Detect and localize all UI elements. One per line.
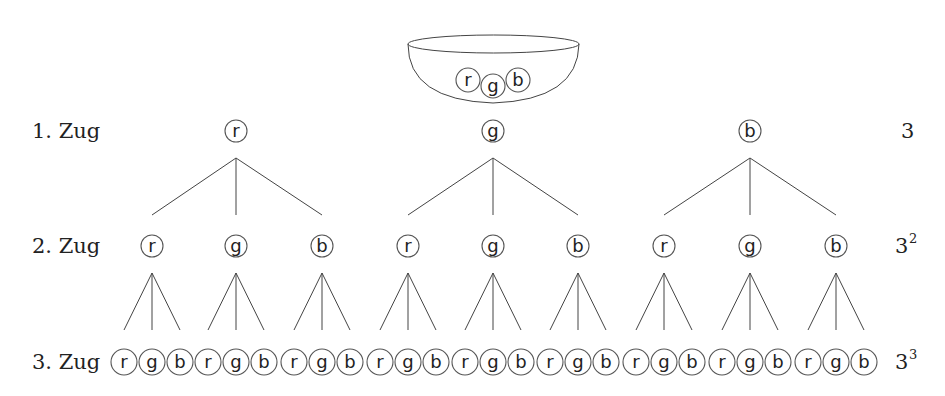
ball-letter: g — [230, 351, 241, 372]
bowl-ball-b: b — [506, 68, 530, 92]
level-2-node-r: r — [653, 235, 675, 258]
ball-letter: b — [744, 120, 755, 141]
ball-letter: b — [600, 351, 611, 372]
level-2-label: 2. Zug — [32, 234, 100, 258]
level-3-node-b: b — [167, 349, 193, 375]
ball-letter: g — [487, 75, 498, 96]
level-3-node-g: g — [480, 349, 506, 375]
ball-letter: b — [316, 235, 327, 256]
level-3-node-r: r — [367, 349, 393, 375]
level-2-node-g: g — [739, 235, 761, 258]
level-2-node-r: r — [397, 235, 419, 258]
level-1-label: 1. Zug — [32, 119, 100, 143]
ball-letter: r — [804, 351, 812, 372]
tree-edge — [493, 158, 578, 215]
ball-letter: r — [660, 235, 668, 256]
tree-edge — [152, 273, 180, 330]
level-3-node-r: r — [623, 349, 649, 375]
bowl: rgb — [408, 35, 579, 103]
ball-letter: r — [632, 351, 640, 372]
tree-edge — [550, 273, 578, 330]
ball-letter: r — [464, 69, 472, 90]
ball-letter: g — [744, 351, 755, 372]
level-3-node-r: r — [795, 349, 821, 375]
level-3-node-g: g — [565, 349, 591, 375]
tree-edge — [408, 273, 436, 330]
ball-letter: b — [258, 351, 269, 372]
level-3-node-r: r — [281, 349, 307, 375]
level-3-count: 3 — [895, 350, 908, 374]
tree-edge — [808, 273, 836, 330]
ball-letter: r — [290, 351, 298, 372]
ball-letter: b — [830, 235, 841, 256]
bowl-ball-g: g — [481, 74, 505, 98]
tree-nodes: rgbrgbrgbrgbrgbrgbrgbrgbrgbrgbrgbrgbrgb — [111, 120, 877, 376]
ball-letter: g — [830, 351, 841, 372]
level-3-node-g: g — [651, 349, 677, 375]
ball-letter: b — [512, 69, 523, 90]
bowl-balls: rgb — [456, 68, 530, 98]
level-3-node-g: g — [737, 349, 763, 375]
level-3-node-b: b — [593, 349, 619, 375]
level-3-node-b: b — [423, 349, 449, 375]
level-2-node-g: g — [482, 235, 504, 258]
ball-letter: g — [316, 351, 327, 372]
level-3-node-b: b — [337, 349, 363, 375]
tree-edge — [664, 158, 750, 215]
level-2-node-g: g — [225, 235, 247, 258]
ball-letter: g — [487, 120, 498, 141]
ball-letter: r — [148, 235, 156, 256]
ball-letter: g — [744, 235, 755, 256]
ball-letter: r — [404, 235, 412, 256]
level-1-node-r: r — [225, 120, 247, 143]
level-2-node-b: b — [311, 235, 333, 258]
tree-edge — [465, 273, 493, 330]
tree-diagram: rgb 1. Zug 2. Zug 3. Zug 3 3 2 3 3 rgbrg… — [0, 0, 945, 396]
tree-edge — [578, 273, 606, 330]
level-2-node-b: b — [825, 235, 847, 258]
tree-edge — [836, 273, 864, 330]
level-1-count: 3 — [901, 119, 914, 143]
level-3-node-b: b — [765, 349, 791, 375]
level-3-node-r: r — [709, 349, 735, 375]
tree-edge — [236, 158, 322, 215]
ball-letter: b — [572, 235, 583, 256]
tree-edge — [236, 273, 264, 330]
tree-edge — [408, 158, 493, 215]
bowl-rim — [408, 35, 579, 53]
level-3-node-g: g — [139, 349, 165, 375]
tree-edge — [722, 273, 750, 330]
ball-letter: r — [461, 351, 469, 372]
ball-letter: b — [686, 351, 697, 372]
level-3-node-g: g — [823, 349, 849, 375]
level-3-node-b: b — [679, 349, 705, 375]
tree-edge — [750, 158, 836, 215]
ball-letter: g — [402, 351, 413, 372]
ball-letter: b — [515, 351, 526, 372]
level-2-node-b: b — [567, 235, 589, 258]
level-3-label: 3. Zug — [32, 350, 100, 374]
level-3-node-b: b — [851, 349, 877, 375]
tree-edge — [208, 273, 236, 330]
level-2-count: 3 — [895, 234, 908, 258]
ball-letter: r — [718, 351, 726, 372]
ball-letter: g — [487, 235, 498, 256]
ball-letter: b — [430, 351, 441, 372]
ball-letter: g — [572, 351, 583, 372]
ball-letter: b — [344, 351, 355, 372]
level-3-node-b: b — [251, 349, 277, 375]
tree-edge — [636, 273, 664, 330]
ball-letter: r — [376, 351, 384, 372]
level-1-node-b: b — [739, 120, 761, 143]
ball-letter: g — [487, 351, 498, 372]
level-3-node-g: g — [395, 349, 421, 375]
level-3-node-r: r — [537, 349, 563, 375]
level-3-node-g: g — [223, 349, 249, 375]
tree-edge — [750, 273, 778, 330]
ball-letter: b — [772, 351, 783, 372]
tree-edge — [124, 273, 152, 330]
level-3-node-r: r — [452, 349, 478, 375]
tree-edge — [294, 273, 322, 330]
ball-letter: r — [546, 351, 554, 372]
ball-letter: b — [858, 351, 869, 372]
